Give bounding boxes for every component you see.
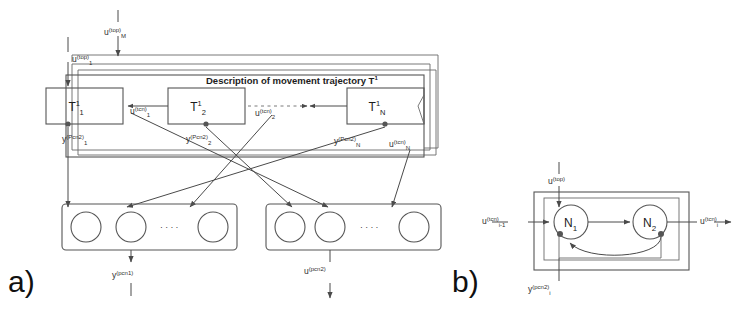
panel-b-label-u-tcn-right: u(tcn)i [700,216,718,228]
panel-b-label-y-pcn2: y(pcn2)i [528,284,551,296]
panel-b-neuron-1-label: N1 [564,216,578,233]
label-y-pcn2-1: y(Pcn2)1 [62,134,88,146]
label-u-top-M: u(top)M [104,27,126,39]
label-u-top-1: u(top)1 [72,54,93,66]
label-u-tcn-N: u(tcn)N [389,139,410,151]
left-layer-ellipsis: · · · · [160,222,178,232]
container-title: Description of movement trajectory T1 [206,75,378,86]
block-N-label: T1N [369,99,386,117]
label-layer: u(top)1 u(top)M Description of movement … [0,0,745,318]
label-u-tcn-2: u(tcn)2 [255,108,276,120]
block-1-label: T11 [68,99,83,117]
panel-b-neuron-2-label: N2 [643,216,657,233]
label-u-tcn-1: u(tcn)1 [130,106,151,118]
label-y-pcn2-N: y(Pcn2)N [334,136,360,148]
panel-b-label-u-tcn-left: u(tcn)i-1 [482,216,506,228]
figure-root: u(top)1 u(top)M Description of movement … [0,0,745,318]
right-layer-ellipsis: · · · · [360,222,378,232]
panel-b-label-u-top: u(top) [548,176,565,187]
panel-a-caption: a) [8,265,35,298]
label-y-pcn1: y(pcn1) [112,270,133,281]
panel-b-caption: b) [452,265,479,298]
block-2-label: T12 [190,99,206,117]
label-u-pcn2: u(pcn2) [304,266,326,277]
label-y-pcn2-2: y(Pcn2)2 [186,134,212,146]
